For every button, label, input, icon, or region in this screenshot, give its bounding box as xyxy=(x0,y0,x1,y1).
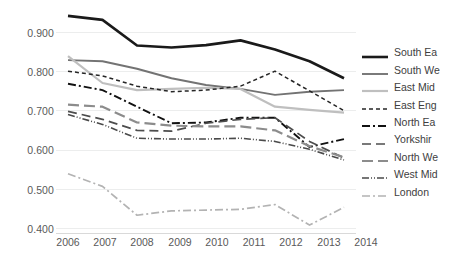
legend-swatch-icon xyxy=(362,117,388,127)
series-line-yorkshir xyxy=(68,111,344,158)
y-axis-tick-4: 0.500 xyxy=(8,184,54,196)
series-line-north-we xyxy=(68,105,344,158)
legend-label: West Mid xyxy=(394,169,438,180)
x-axis-tick-2006: 2006 xyxy=(48,236,88,248)
legend-item-west-mid[interactable]: West Mid xyxy=(362,166,452,183)
legend-swatch-icon xyxy=(362,100,388,110)
legend-label: East Mid xyxy=(394,82,435,93)
line-chart: 0.900 0.800 0.700 0.600 0.500 0.400 2006… xyxy=(0,0,452,260)
legend-label: North We xyxy=(394,152,438,163)
legend-label: London xyxy=(394,187,429,198)
legend-label: Yorkshir xyxy=(394,134,432,145)
x-axis-tick-2012: 2012 xyxy=(271,236,311,248)
legend-label: East Eng xyxy=(394,100,437,111)
y-axis-tick-2: 0.700 xyxy=(8,105,54,117)
legend-item-east-mid[interactable]: East Mid xyxy=(362,79,452,96)
legend-item-east-eng[interactable]: East Eng xyxy=(362,96,452,113)
legend-item-yorkshir[interactable]: Yorkshir xyxy=(362,131,452,148)
x-axis-tick-2011: 2011 xyxy=(234,236,274,248)
chart-legend: South EaSouth WeEast MidEast EngNorth Ea… xyxy=(362,44,452,201)
legend-swatch-icon xyxy=(362,135,388,145)
x-axis-tick-2010: 2010 xyxy=(197,236,237,248)
legend-label: South We xyxy=(394,65,440,76)
y-axis-tick-5: 0.400 xyxy=(8,223,54,235)
y-axis-tick-0: 0.900 xyxy=(8,27,54,39)
x-axis-tick-2009: 2009 xyxy=(160,236,200,248)
legend-item-north-we[interactable]: North We xyxy=(362,148,452,165)
x-axis-tick-2014: 2014 xyxy=(346,236,386,248)
legend-item-south-we[interactable]: South We xyxy=(362,61,452,78)
series-line-east-eng xyxy=(68,71,344,110)
legend-swatch-icon xyxy=(362,65,388,75)
y-axis-tick-1: 0.800 xyxy=(8,66,54,78)
series-lines xyxy=(56,8,356,233)
x-axis-line xyxy=(56,233,356,234)
legend-item-london[interactable]: London xyxy=(362,183,452,200)
x-axis-tick-2008: 2008 xyxy=(122,236,162,248)
x-axis-tick-2013: 2013 xyxy=(309,236,349,248)
x-axis-tick-2007: 2007 xyxy=(85,236,125,248)
y-axis-tick-3: 0.600 xyxy=(8,144,54,156)
legend-swatch-icon xyxy=(362,187,388,197)
legend-label: South Ea xyxy=(394,47,437,58)
series-line-south-ea xyxy=(68,16,344,78)
legend-item-north-ea[interactable]: North Ea xyxy=(362,114,452,131)
legend-swatch-icon xyxy=(362,82,388,92)
series-line-london xyxy=(68,174,344,225)
plot-area xyxy=(56,8,356,233)
legend-swatch-icon xyxy=(362,152,388,162)
legend-swatch-icon xyxy=(362,48,388,58)
legend-item-south-ea[interactable]: South Ea xyxy=(362,44,452,61)
legend-swatch-icon xyxy=(362,169,388,179)
legend-label: North Ea xyxy=(394,117,435,128)
